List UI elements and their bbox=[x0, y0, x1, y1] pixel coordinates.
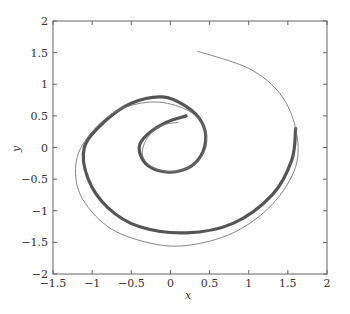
y-tick-label: −0.5 bbox=[21, 173, 48, 186]
x-tick-label: 0.5 bbox=[201, 277, 219, 290]
y-tick-label: −2 bbox=[32, 268, 48, 281]
x-axis-label: x bbox=[185, 289, 192, 302]
spiral-chart: −1.5−1−0.500.511.5221.510.50−0.5−1−1.5−2… bbox=[0, 0, 350, 314]
y-axis-label: y bbox=[10, 145, 23, 153]
y-tick-label: 2 bbox=[41, 15, 48, 28]
axes: −1.5−1−0.500.511.5221.510.50−0.5−1−1.5−2 bbox=[21, 15, 330, 290]
y-tick-label: −1 bbox=[32, 205, 48, 218]
y-tick-label: 0 bbox=[41, 142, 48, 155]
y-tick-label: 1 bbox=[41, 78, 48, 91]
x-tick-label: −0.5 bbox=[118, 277, 145, 290]
plot-frame bbox=[53, 21, 327, 274]
y-tick-label: 1.5 bbox=[31, 47, 49, 60]
x-tick-label: 2 bbox=[324, 277, 331, 290]
series-thin-spiral bbox=[75, 51, 298, 246]
plot-area bbox=[75, 51, 298, 246]
y-tick-label: 0.5 bbox=[31, 110, 49, 123]
x-tick-label: 1 bbox=[245, 277, 252, 290]
x-tick-label: 1.5 bbox=[279, 277, 297, 290]
x-tick-label: 0 bbox=[167, 277, 174, 290]
x-tick-label: −1 bbox=[84, 277, 100, 290]
y-tick-label: −1.5 bbox=[21, 236, 48, 249]
